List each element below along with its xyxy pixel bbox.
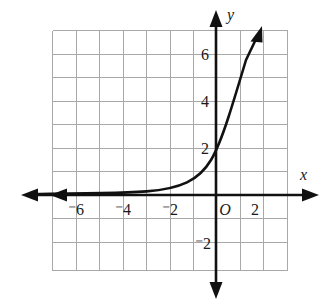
origin-label: O xyxy=(219,201,231,218)
y-tick-label-4: 4 xyxy=(201,93,209,110)
y-tick-label-2: 2 xyxy=(201,140,209,157)
x-tick-label-2: 2 xyxy=(251,201,259,218)
x-tick-label-neg6: ⁻6 xyxy=(68,201,84,218)
y-axis-label: y xyxy=(225,6,235,24)
x-tick-label-neg2: ⁻2 xyxy=(162,201,178,218)
x-tick-label-neg4: ⁻4 xyxy=(115,201,131,218)
figure-background xyxy=(0,0,330,308)
graph-figure: 6 4 2 ⁻2 ⁻6 ⁻4 ⁻2 O 2 y x xyxy=(0,0,330,308)
y-tick-label-6: 6 xyxy=(201,46,209,63)
x-axis-label: x xyxy=(299,166,307,183)
coordinate-plane-graph: 6 4 2 ⁻2 ⁻6 ⁻4 ⁻2 O 2 y x xyxy=(0,0,330,308)
y-tick-label-neg2: ⁻2 xyxy=(195,235,211,252)
